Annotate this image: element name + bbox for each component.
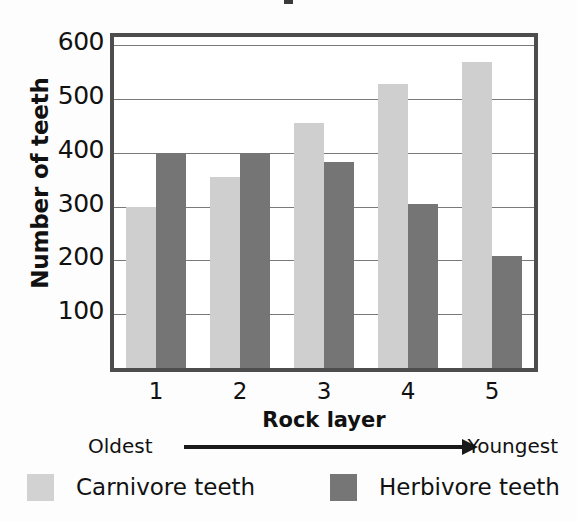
legend-label-carnivore: Carnivore teeth <box>76 474 255 500</box>
x-axis-tick-labels: 12345 <box>110 378 538 408</box>
y-tick-200: 200 <box>58 242 104 271</box>
legend-swatch-carnivore <box>27 474 54 501</box>
x-tick-5: 5 <box>470 378 514 404</box>
cropped-title-artifact <box>284 0 293 4</box>
youngest-label: Youngest <box>468 434 558 458</box>
legend-swatch-herbivore <box>330 474 357 501</box>
oldest-label: Oldest <box>88 434 153 458</box>
direction-arrow-line <box>184 445 464 449</box>
chart-legend: Carnivore teeth Herbivore teeth <box>0 470 577 510</box>
bar-herbivore-layer-4 <box>408 204 438 368</box>
legend-item-carnivore: Carnivore teeth <box>27 470 255 504</box>
legend-item-herbivore: Herbivore teeth <box>330 470 560 504</box>
bar-herbivore-layer-2 <box>240 153 270 368</box>
x-tick-4: 4 <box>386 378 430 404</box>
plot-inner <box>114 37 534 368</box>
x-tick-3: 3 <box>302 378 346 404</box>
y-tick-300: 300 <box>58 189 104 218</box>
y-tick-500: 500 <box>58 81 104 110</box>
y-tick-600: 600 <box>58 27 104 56</box>
bar-carnivore-layer-2 <box>210 177 240 368</box>
y-tick-100: 100 <box>58 296 104 325</box>
age-direction-row: Oldest Youngest <box>88 434 558 460</box>
plot-area <box>110 33 538 372</box>
x-tick-1: 1 <box>134 378 178 404</box>
bar-carnivore-layer-3 <box>294 123 324 368</box>
legend-label-herbivore: Herbivore teeth <box>379 474 560 500</box>
bar-herbivore-layer-5 <box>492 256 522 368</box>
y-tick-400: 400 <box>58 135 104 164</box>
bar-herbivore-layer-3 <box>324 162 354 368</box>
bar-herbivore-layer-1 <box>156 153 186 368</box>
bar-chart-figure: Number of teeth 600500400300200100 12345… <box>0 0 577 521</box>
gridline-600 <box>114 45 534 46</box>
x-tick-2: 2 <box>218 378 262 404</box>
x-axis-title: Rock layer <box>110 408 538 432</box>
bar-carnivore-layer-4 <box>378 84 408 368</box>
bar-carnivore-layer-5 <box>462 62 492 368</box>
bar-carnivore-layer-1 <box>126 207 156 368</box>
